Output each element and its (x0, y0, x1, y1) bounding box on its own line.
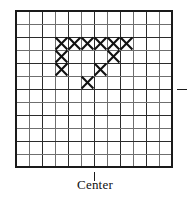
stitch-cell (82, 77, 94, 89)
grid-lines (16, 11, 173, 168)
stitch-cell (56, 51, 68, 63)
stitch-cell (108, 38, 120, 50)
stitch-cell (95, 38, 107, 50)
cross-stitch-chart-figure: Center (0, 0, 190, 198)
stitch-cell (95, 64, 107, 76)
stitch-cell (121, 38, 133, 50)
stitch-cell (108, 51, 120, 63)
stitch-cell (56, 64, 68, 76)
stitch-cell (69, 38, 81, 50)
stitch-cell (82, 38, 94, 50)
stitch-cell (56, 38, 68, 50)
center-axis-label: Center (0, 178, 190, 192)
stitch-chart-canvas (0, 0, 190, 198)
